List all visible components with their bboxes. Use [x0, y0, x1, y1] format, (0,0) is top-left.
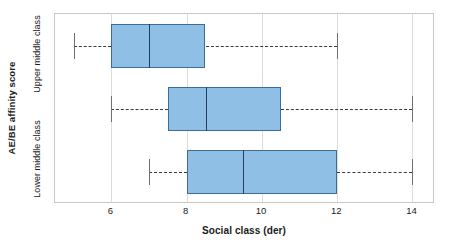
whisker-cap-right: [412, 159, 413, 185]
x-tick-label-6: 6: [108, 205, 113, 216]
y-axis-title-container: AE/BE affinity score: [0, 13, 22, 203]
whisker-right: [337, 172, 412, 173]
x-tick-label-10: 10: [256, 205, 267, 216]
y-tick-label-lower-middle-class: Lower middle class: [22, 118, 52, 200]
y-tick-label-upper-middle-class: Upper middle class: [22, 16, 52, 92]
whisker-left: [149, 172, 187, 173]
box-iqr: [187, 150, 338, 194]
median-line: [243, 150, 244, 194]
plot-area: [54, 13, 434, 203]
boxplot-figure: AE/BE affinity score Upper middle class …: [0, 0, 451, 249]
boxplot-group-3: [55, 14, 433, 202]
whisker-cap-left: [149, 159, 150, 185]
y-tick-label-text: Lower middle class: [32, 120, 42, 197]
y-tick-label-text: Upper middle class: [32, 15, 42, 92]
x-tick-label-14: 14: [406, 205, 417, 216]
x-axis-tick-labels: 68101214: [54, 205, 434, 221]
x-tick-label-12: 12: [331, 205, 342, 216]
x-tick-label-8: 8: [183, 205, 188, 216]
x-axis-title: Social class (der): [54, 225, 434, 236]
y-axis-title: AE/BE affinity score: [6, 62, 17, 155]
